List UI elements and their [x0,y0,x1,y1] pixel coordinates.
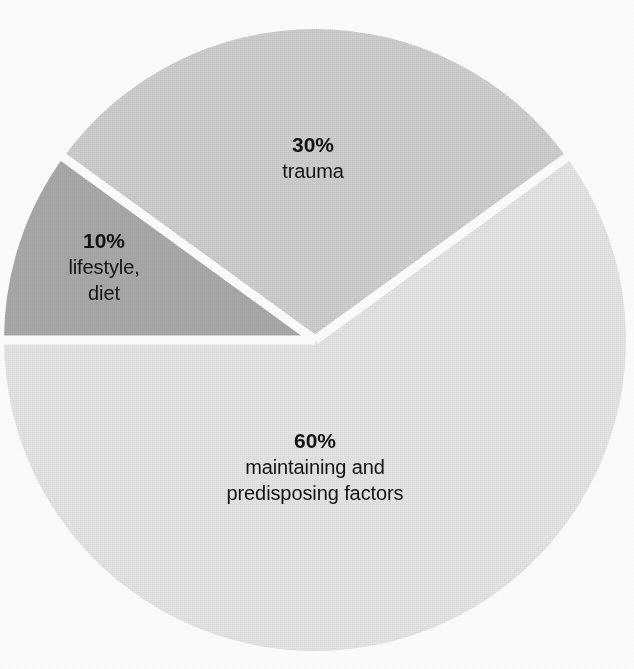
pie-chart-graphic [0,0,634,669]
pie-chart-figure: 30% trauma 10% lifestyle, diet 60% maint… [0,0,634,669]
